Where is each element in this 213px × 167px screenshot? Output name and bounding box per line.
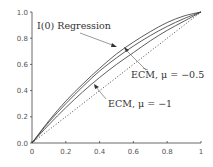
x-tick-label: 0.2 bbox=[60, 148, 71, 156]
x-tick-label: 0.8 bbox=[162, 148, 173, 156]
x-tick-label: 0.6 bbox=[128, 148, 140, 156]
x-tick-label: 0 bbox=[30, 148, 34, 156]
x-tick-label: 0.4 bbox=[94, 148, 106, 156]
y-tick-label: 0.2 bbox=[17, 113, 28, 121]
annotation-ecm-05: ECM, μ = −0.5 bbox=[131, 69, 204, 80]
y-tick-label: 0.8 bbox=[17, 35, 28, 43]
y-ticks: 0.00.20.40.60.81.0 bbox=[17, 9, 32, 148]
annotation-i0-regression: I(0) Regression bbox=[37, 20, 111, 31]
y-tick-label: 0.6 bbox=[17, 61, 29, 69]
y-tick-label: 0.0 bbox=[17, 140, 28, 148]
line-chart: 00.20.40.60.81 0.00.20.40.60.81.0 I(0) R… bbox=[0, 0, 213, 167]
x-tick-label: 1 bbox=[199, 148, 203, 156]
y-tick-label: 1.0 bbox=[17, 9, 28, 17]
y-tick-label: 0.4 bbox=[17, 87, 29, 95]
annotations: I(0) Regression ECM, μ = −0.5 ECM, μ = −… bbox=[37, 20, 204, 109]
annotation-ecm-1: ECM, μ = −1 bbox=[108, 98, 172, 109]
